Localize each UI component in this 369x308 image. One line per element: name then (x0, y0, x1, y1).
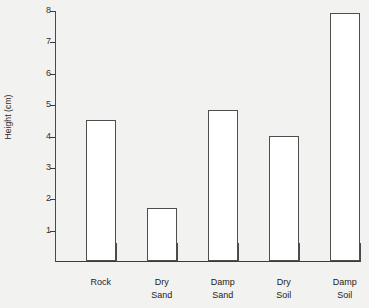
x-tick-label: Dry Soil (276, 276, 291, 301)
y-tick-label: 5 (31, 99, 51, 110)
bar (147, 208, 178, 261)
x-tick-label: Dry Sand (151, 276, 172, 301)
bar (86, 120, 117, 261)
y-tick-label: 3 (31, 162, 51, 173)
bar (269, 136, 300, 262)
y-tick-label: 7 (31, 36, 51, 47)
x-divider-line (299, 243, 300, 262)
y-tick-label: 4 (31, 131, 51, 142)
x-divider-line (238, 243, 239, 262)
y-tick-label: 2 (31, 193, 51, 204)
y-tick-label: 1 (31, 225, 51, 236)
bar-chart: Height (cm) 87654321 RockDry SandDamp Sa… (0, 0, 369, 308)
y-axis-title: Height (cm) (3, 82, 13, 152)
plot-area: 87654321 RockDry SandDamp SandDry SoilDa… (55, 11, 360, 262)
x-divider-line (177, 243, 178, 262)
y-tick-label: 6 (31, 68, 51, 79)
x-tick-label: Damp Soil (333, 276, 357, 301)
x-tick-label: Rock (90, 276, 111, 289)
y-tick-label: 8 (31, 5, 51, 16)
bar (208, 110, 239, 261)
bar (330, 13, 361, 261)
x-divider-line (55, 11, 56, 262)
x-tick-label: Damp Sand (211, 276, 235, 301)
x-divider-line (116, 243, 117, 262)
x-divider-line (360, 243, 361, 262)
